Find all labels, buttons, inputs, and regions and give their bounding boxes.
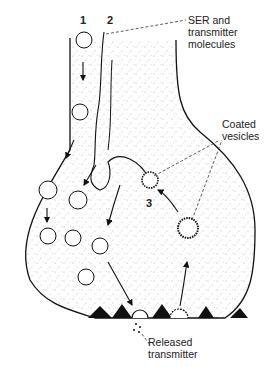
pathway-number-3: 3: [146, 197, 152, 209]
pathway-number-1: 1: [80, 14, 86, 26]
label-released-transmitter: Released transmitter: [148, 336, 198, 360]
pathway-number-2: 2: [107, 14, 113, 26]
released-transmitter-dots: [133, 323, 141, 333]
terminal-membrane: [26, 38, 255, 318]
label-coated-vesicles: Coated vesicles: [222, 118, 259, 142]
coated-vesicle-free: [178, 218, 198, 238]
nerve-terminal-diagram: [0, 0, 272, 367]
coated-vesicle-budding: [142, 172, 158, 188]
label-ser: SER and transmitter molecules: [188, 14, 238, 50]
